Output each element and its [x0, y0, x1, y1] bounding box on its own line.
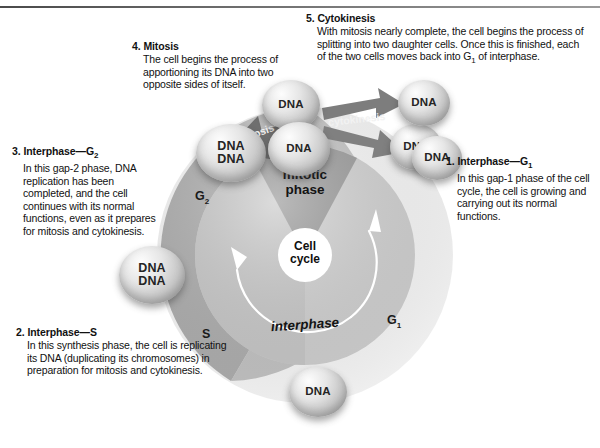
callout-3-title: Interphase: [23, 145, 75, 157]
callout-1-phase: G: [520, 155, 528, 167]
callout-3-dash: —: [76, 145, 86, 157]
cell-dna-label: DNA: [286, 142, 312, 156]
cell-entering-mitosis: DNA DNA: [196, 124, 266, 182]
callout-4-body: The cell begins the process of apportion…: [132, 53, 312, 91]
callout-5-title: Cytokinesis: [317, 12, 375, 24]
callout-4-body-text: The cell begins the process of apportion…: [143, 53, 312, 91]
callout-2-heading: 2. Interphase—S: [16, 326, 231, 339]
cell-dna-label: DNA DNA: [138, 262, 166, 289]
top-divider-rule: [0, 6, 600, 8]
center-label-line2: cycle: [279, 253, 331, 266]
phase-word-mitotic-line2: phase: [263, 182, 347, 197]
callout-2-phase: S: [90, 326, 97, 338]
callout-1-interphase-g1: 1. Interphase—G1 In this gap-1 phase of …: [446, 155, 596, 222]
callout-4-mitosis: 4. Mitosis The cell begins the process o…: [132, 40, 312, 91]
callout-2-title: Interphase: [27, 326, 79, 338]
callout-5-body-part1: With mitosis nearly complete, the cell b…: [317, 25, 583, 62]
daughter-cell-one: DNA: [398, 80, 450, 126]
center-cell-cycle-label: Cell cycle: [279, 240, 331, 266]
cell-s-phase: DNA: [289, 367, 347, 417]
callout-1-body-text: In this gap-1 phase of the cell cycle, t…: [457, 172, 596, 222]
ring-label-g2-subscript: 2: [205, 197, 209, 206]
callout-3-interphase-g2: 3. Interphase—G2 In this gap-2 phase, DN…: [12, 145, 162, 238]
callout-1-heading: 1. Interphase—G1: [446, 155, 596, 172]
cell-cycle-figure: G2 S G1 mitotic phase interphase Cell cy…: [0, 0, 600, 448]
cell-dna-label: DNA: [305, 385, 331, 399]
callout-3-body-text: In this gap-2 phase, DNA replication has…: [23, 162, 162, 238]
ring-label-g1-subscript: 1: [397, 321, 401, 330]
callout-1-dash: —: [510, 155, 520, 167]
cell-dna-label: DNA: [411, 96, 437, 110]
callout-4-number: 4.: [132, 40, 141, 52]
callout-1-phase-subscript: 1: [528, 161, 532, 170]
callout-1-title: Interphase: [457, 155, 509, 167]
callout-3-phase: G: [86, 145, 94, 157]
callout-1-number: 1.: [446, 155, 455, 167]
callout-2-dash: —: [80, 326, 90, 338]
callout-1-body: In this gap-1 phase of the cell cycle, t…: [446, 172, 596, 222]
callout-5-number: 5.: [306, 12, 315, 24]
callout-3-body: In this gap-2 phase, DNA replication has…: [12, 162, 162, 238]
callout-2-interphase-s: 2. Interphase—S In this synthesis phase,…: [16, 326, 231, 377]
cell-dna-label: DNA DNA: [217, 140, 245, 167]
cell-dna-line2: DNA: [217, 152, 245, 166]
callout-5-body-part2: of interphase.: [476, 50, 540, 62]
cell-dna-line2: DNA: [138, 274, 166, 288]
callout-5-heading: 5. Cytokinesis: [306, 12, 586, 25]
callout-2-number: 2.: [16, 326, 25, 338]
cell-dna-line1: DNA: [217, 139, 245, 153]
callout-2-body-text: In this synthesis phase, the cell is rep…: [27, 339, 231, 377]
callout-3-number: 3.: [12, 145, 21, 157]
callout-2-body: In this synthesis phase, the cell is rep…: [16, 339, 231, 377]
callout-5-cytokinesis: 5. Cytokinesis With mitosis nearly compl…: [306, 12, 586, 68]
dividing-cell-bottom-lobe: DNA: [268, 122, 330, 176]
cell-g2-phase: DNA DNA: [119, 246, 185, 304]
ring-label-g1: G1: [387, 313, 401, 330]
ring-label-g2: G2: [195, 189, 209, 206]
callout-4-heading: 4. Mitosis: [132, 40, 312, 53]
cell-dna-line1: DNA: [138, 261, 166, 275]
callout-3-heading: 3. Interphase—G2: [12, 145, 162, 162]
callout-4-title: Mitosis: [143, 40, 178, 52]
callout-5-body: With mitosis nearly complete, the cell b…: [306, 25, 586, 68]
cell-dna-label: DNA: [278, 98, 304, 112]
callout-3-phase-subscript: 2: [94, 151, 98, 160]
